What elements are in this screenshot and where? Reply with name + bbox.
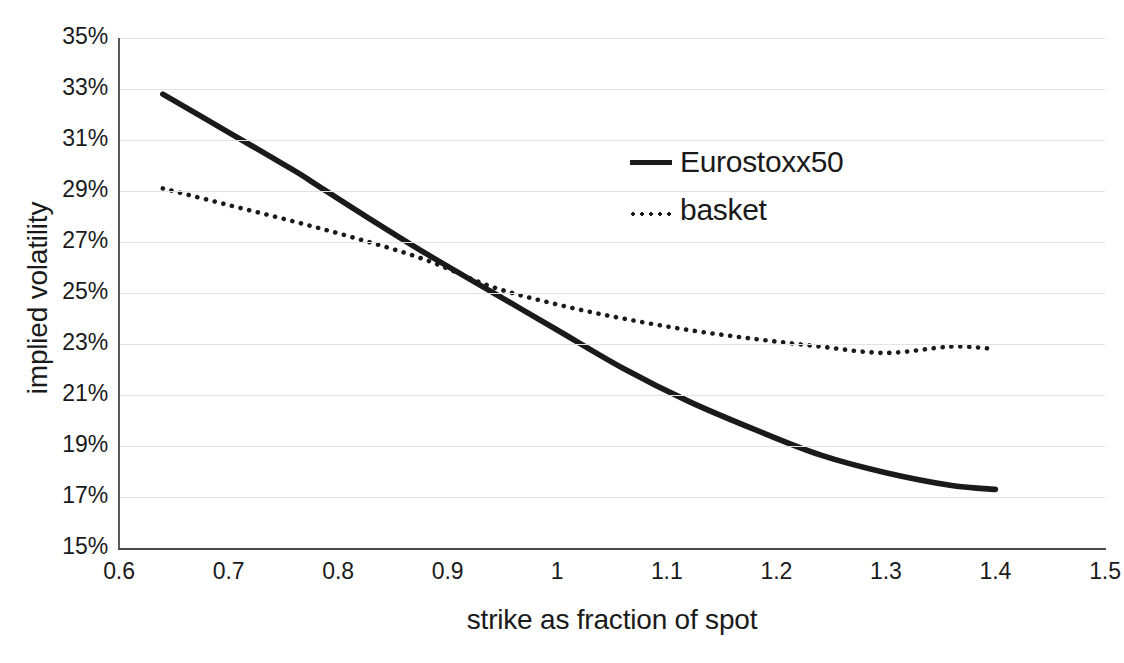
- gridline: [119, 242, 1105, 243]
- x-tick-label: 1: [512, 558, 602, 585]
- chart-legend: Eurostoxx50basket: [628, 138, 843, 234]
- y-tick-label: 33%: [18, 74, 108, 101]
- y-tick-label: 25%: [18, 278, 108, 305]
- plot-area: [119, 38, 1105, 548]
- implied-volatility-chart: implied volatility strike as fraction of…: [0, 0, 1124, 663]
- y-tick-label: 27%: [18, 227, 108, 254]
- y-tick-label: 17%: [18, 482, 108, 509]
- y-tick-label: 19%: [18, 431, 108, 458]
- legend-label: Eurostoxx50: [680, 145, 843, 179]
- y-tick-label: 35%: [18, 23, 108, 50]
- legend-entry[interactable]: Eurostoxx50: [628, 138, 843, 186]
- x-tick-label: 0.9: [403, 558, 493, 585]
- gridline: [119, 38, 1105, 39]
- x-axis-line: [118, 548, 1106, 550]
- solid-line-icon: [628, 152, 674, 172]
- x-tick-label: 1.2: [731, 558, 821, 585]
- y-axis-line: [118, 38, 120, 550]
- x-tick-label: 0.7: [184, 558, 274, 585]
- gridline: [119, 191, 1105, 192]
- x-tick-label: 1.4: [950, 558, 1040, 585]
- series-line-eurostoxx50: [163, 94, 996, 489]
- y-tick-label: 21%: [18, 380, 108, 407]
- x-tick-label: 1.5: [1060, 558, 1124, 585]
- gridline: [119, 344, 1105, 345]
- x-tick-label: 1.1: [622, 558, 712, 585]
- y-tick-label: 23%: [18, 329, 108, 356]
- gridline: [119, 497, 1105, 498]
- y-tick-label: 31%: [18, 125, 108, 152]
- y-tick-label: 29%: [18, 176, 108, 203]
- dotted-line-icon: [628, 200, 674, 220]
- gridline: [119, 395, 1105, 396]
- x-tick-label: 0.8: [293, 558, 383, 585]
- gridline: [119, 140, 1105, 141]
- x-tick-label: 1.3: [841, 558, 931, 585]
- gridline: [119, 89, 1105, 90]
- series-line-basket: [163, 188, 996, 352]
- y-tick-label: 15%: [18, 533, 108, 560]
- legend-entry[interactable]: basket: [628, 186, 843, 234]
- x-axis-title: strike as fraction of spot: [119, 604, 1105, 636]
- legend-label: basket: [680, 193, 767, 227]
- gridline: [119, 446, 1105, 447]
- x-tick-label: 0.6: [74, 558, 164, 585]
- gridline: [119, 293, 1105, 294]
